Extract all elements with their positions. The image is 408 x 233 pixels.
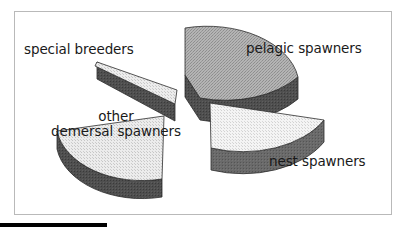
pie-chart-figure: pelagic spawners special breeders other … bbox=[0, 0, 408, 233]
caption-separator-rule bbox=[0, 223, 107, 227]
pie-label-pelagic-spawners: pelagic spawners bbox=[246, 41, 362, 56]
pie-label-nest-spawners: nest spawners bbox=[269, 154, 366, 169]
pie-label-special-breeders: special breeders bbox=[24, 42, 134, 57]
pie-label-other-demersal-line2: demersal spawners bbox=[36, 124, 196, 139]
pie-label-other-demersal-line1: other bbox=[36, 109, 196, 124]
pie-label-other-demersal-spawners: other demersal spawners bbox=[36, 109, 196, 139]
chart-plot-area: pelagic spawners special breeders other … bbox=[14, 11, 392, 215]
